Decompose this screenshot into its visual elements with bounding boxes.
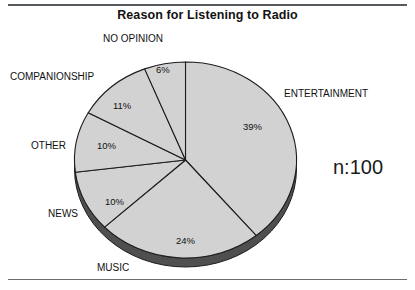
slice-percent-label: 11%	[113, 100, 131, 111]
slice-percent-label: 10%	[105, 196, 124, 207]
chart-page: Reason for Listening to Radio 6%11%10%10…	[0, 0, 415, 290]
slice-category-label: ENTERTAINMENT	[284, 88, 368, 99]
slice-percent-label: 6%	[156, 64, 170, 75]
slice-category-label: NEWS	[48, 208, 78, 219]
slice-category-label: OTHER	[31, 140, 66, 151]
slice-category-label: COMPANIONSHIP	[10, 71, 94, 82]
slice-percent-label: 39%	[243, 121, 262, 132]
slice-percent-label: 10%	[97, 140, 116, 151]
slice-category-label: MUSIC	[97, 262, 129, 273]
sample-size-annotation: n:100	[333, 156, 383, 179]
slice-percent-label: 24%	[176, 235, 195, 246]
slice-category-label: NO OPINION	[103, 33, 163, 44]
